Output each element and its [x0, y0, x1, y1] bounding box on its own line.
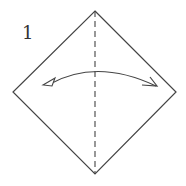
- origami-diagram: [0, 0, 186, 186]
